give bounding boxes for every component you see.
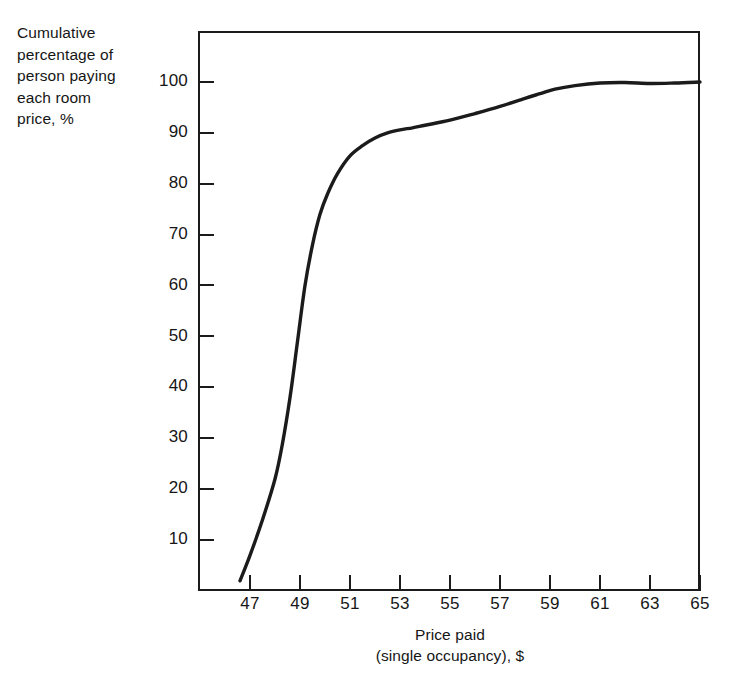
x-axis-tick — [399, 575, 401, 591]
x-axis-label-line: (single occupancy), $ — [215, 645, 685, 666]
plot-area — [198, 31, 700, 591]
y-axis-label-line: percentage of — [17, 44, 167, 66]
y-axis-tick — [198, 539, 214, 541]
y-axis-tick-label: 10 — [142, 529, 188, 549]
x-axis-tick-label: 63 — [630, 594, 670, 614]
x-axis-tick — [299, 575, 301, 591]
x-axis-tick — [349, 575, 351, 591]
x-axis-tick — [249, 575, 251, 591]
x-axis-tick — [549, 575, 551, 591]
y-axis-tick — [198, 284, 214, 286]
y-axis-tick — [198, 132, 214, 134]
y-axis-tick — [198, 234, 214, 236]
x-axis-tick — [649, 575, 651, 591]
y-axis-tick-label: 20 — [142, 478, 188, 498]
x-axis-tick — [599, 575, 601, 591]
y-axis-tick-label: 50 — [142, 326, 188, 346]
y-axis-tick — [198, 386, 214, 388]
y-axis-tick-label: 80 — [142, 173, 188, 193]
x-axis-tick-label: 55 — [430, 594, 470, 614]
y-axis-tick-label: 90 — [142, 122, 188, 142]
x-axis-tick-label: 65 — [680, 594, 720, 614]
y-axis-tick-label: 100 — [142, 71, 188, 91]
y-axis-tick — [198, 335, 214, 337]
y-axis-tick-label: 60 — [142, 275, 188, 295]
y-axis-tick-label: 30 — [142, 427, 188, 447]
y-axis-label-line: Cumulative — [17, 22, 167, 44]
x-axis-tick — [699, 575, 701, 591]
y-axis-tick-label: 40 — [142, 376, 188, 396]
y-axis-tick-label: 70 — [142, 224, 188, 244]
x-axis-tick-label: 61 — [580, 594, 620, 614]
y-axis-tick — [198, 488, 214, 490]
x-axis-tick-label: 51 — [330, 594, 370, 614]
x-axis-tick-label: 57 — [480, 594, 520, 614]
y-axis-tick — [198, 81, 214, 83]
x-axis-label-line: Price paid — [215, 624, 685, 645]
y-axis-tick — [198, 437, 214, 439]
x-axis-tick — [499, 575, 501, 591]
x-axis-tick-label: 53 — [380, 594, 420, 614]
x-axis-tick-label: 47 — [230, 594, 270, 614]
chart-figure: Cumulative percentage of person paying e… — [0, 0, 730, 675]
x-axis-label: Price paid (single occupancy), $ — [215, 624, 685, 666]
y-axis-tick — [198, 183, 214, 185]
x-axis-tick — [449, 575, 451, 591]
x-axis-tick-label: 59 — [530, 594, 570, 614]
x-axis-tick-label: 49 — [280, 594, 320, 614]
